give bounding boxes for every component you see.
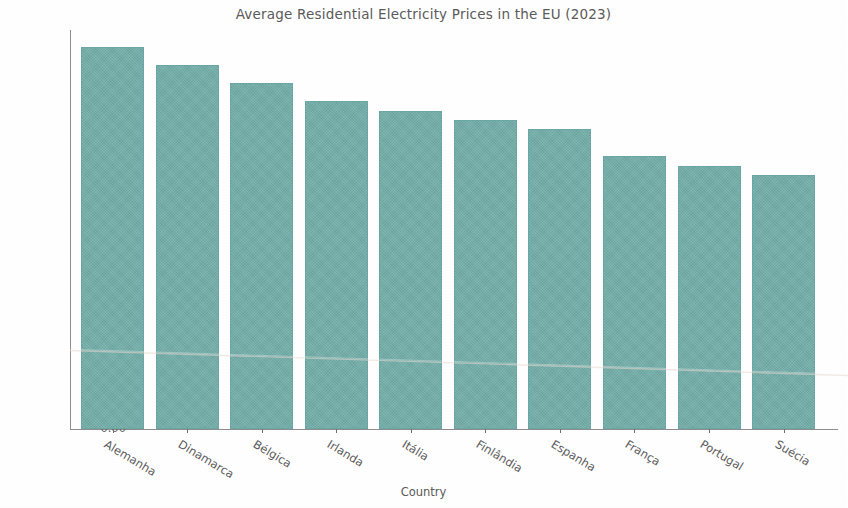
x-tick-label: Alemanha bbox=[101, 437, 158, 479]
x-tick-mark bbox=[336, 429, 337, 433]
bar bbox=[752, 175, 815, 429]
bar bbox=[678, 166, 741, 429]
x-tick-label: França bbox=[623, 437, 663, 469]
bar bbox=[305, 101, 368, 429]
bar bbox=[230, 83, 293, 429]
x-tick-mark bbox=[485, 429, 486, 433]
x-tick-label: Irlanda bbox=[325, 437, 366, 470]
bar bbox=[81, 47, 144, 429]
x-tick-mark bbox=[784, 429, 785, 433]
x-tick-label: Espanha bbox=[549, 437, 598, 474]
x-tick-mark bbox=[709, 429, 710, 433]
x-tick-mark bbox=[634, 429, 635, 433]
bar bbox=[156, 65, 219, 429]
x-tick-mark bbox=[187, 429, 188, 433]
x-tick-mark bbox=[262, 429, 263, 433]
chart-title: Average Residential Electricity Prices i… bbox=[0, 6, 847, 22]
bar bbox=[528, 129, 591, 429]
x-tick-label: Suécia bbox=[772, 437, 812, 469]
x-tick-label: Dinamarca bbox=[176, 437, 237, 481]
x-axis-label: Country bbox=[0, 485, 847, 499]
x-tick-label: Portugal bbox=[698, 437, 746, 474]
x-tick-mark bbox=[113, 429, 114, 433]
plot-area: €/kWh 0.000.050.100.150.200.250.300.350.… bbox=[70, 30, 838, 429]
x-tick-label: Bélgica bbox=[250, 437, 293, 471]
x-tick-mark bbox=[560, 429, 561, 433]
x-axis-spine bbox=[70, 429, 838, 430]
bar bbox=[379, 111, 442, 429]
bar bbox=[603, 156, 666, 429]
bar bbox=[454, 120, 517, 429]
x-tick-mark bbox=[411, 429, 412, 433]
x-tick-label: Finlândia bbox=[474, 437, 525, 475]
x-tick-label: Itália bbox=[400, 437, 432, 464]
